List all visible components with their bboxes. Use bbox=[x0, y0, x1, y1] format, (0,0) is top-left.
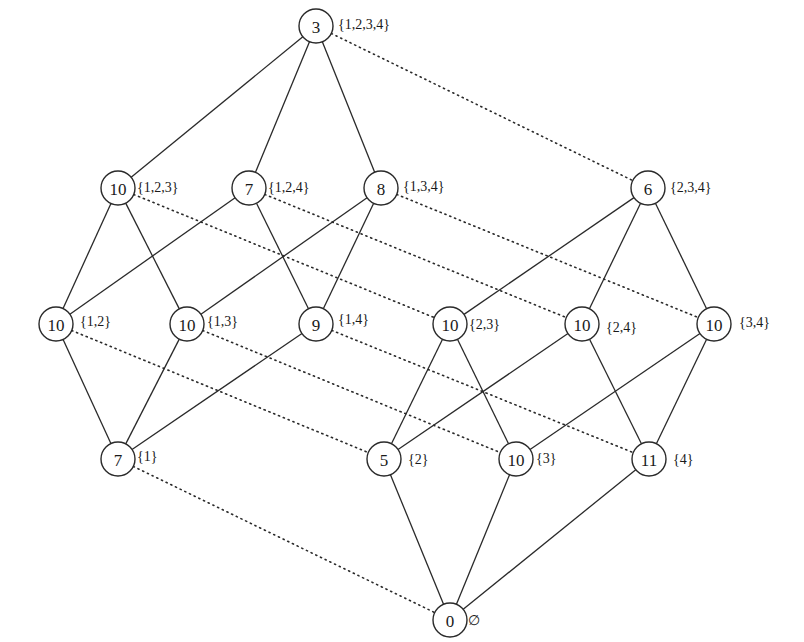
node-set-label: {1,3,4} bbox=[403, 179, 444, 194]
node-value: 10 bbox=[442, 316, 459, 335]
node-set-label: ∅ bbox=[468, 613, 480, 628]
edge-s4-s0 bbox=[463, 470, 636, 610]
node-set-label: {3,4} bbox=[739, 315, 770, 330]
edge-s34-s4 bbox=[656, 339, 706, 443]
node-set-label: {1,2,3} bbox=[137, 180, 178, 195]
lattice-node-s3: 10{3} bbox=[499, 442, 556, 476]
node-set-label: {4} bbox=[673, 452, 693, 467]
dotted-edge-s1-s0 bbox=[133, 466, 434, 612]
edge-s1234-s123 bbox=[131, 37, 303, 177]
edge-s124-s12 bbox=[70, 198, 235, 314]
edge-s234-s34 bbox=[655, 203, 706, 308]
node-value: 10 bbox=[179, 316, 196, 335]
lattice-node-s14: 9{1,4} bbox=[299, 307, 369, 341]
edge-s234-s24 bbox=[589, 203, 640, 308]
node-set-label: {1,2} bbox=[80, 314, 111, 329]
node-value: 11 bbox=[641, 451, 657, 470]
lattice-node-s4: 11{4} bbox=[632, 442, 693, 476]
node-value: 10 bbox=[706, 316, 723, 335]
node-set-label: {3} bbox=[536, 451, 556, 466]
edge-s34-s3 bbox=[530, 334, 700, 450]
node-set-label: {1,2,3,4} bbox=[338, 17, 390, 32]
edge-s134-s14 bbox=[323, 203, 373, 308]
lattice-node-s24: 10{2,4} bbox=[565, 307, 637, 341]
edge-s14-s1 bbox=[132, 334, 302, 450]
edge-s123-s12 bbox=[63, 203, 111, 308]
edge-s234-s23 bbox=[464, 198, 634, 315]
edge-s12-s1 bbox=[63, 339, 111, 443]
lattice-node-s134: 8{1,3,4} bbox=[364, 171, 444, 205]
node-set-label: {1,4} bbox=[338, 312, 369, 327]
lattice-node-s0: 0∅ bbox=[433, 603, 480, 637]
edge-s3-s0 bbox=[456, 475, 509, 605]
dotted-edge-s1234-s234 bbox=[331, 33, 632, 180]
lattice-node-s1: 7{1} bbox=[101, 442, 157, 476]
node-value: 6 bbox=[644, 180, 653, 199]
edge-s2-s0 bbox=[390, 475, 443, 605]
node-value: 0 bbox=[446, 612, 455, 631]
node-value: 8 bbox=[377, 180, 386, 199]
node-set-label: {2,3} bbox=[469, 317, 500, 332]
dotted-edge-s12-s2 bbox=[72, 330, 369, 452]
node-value: 7 bbox=[114, 451, 123, 470]
node-value: 10 bbox=[574, 316, 591, 335]
dotted-edge-s134-s34 bbox=[397, 194, 699, 317]
node-value: 3 bbox=[312, 18, 321, 37]
node-set-label: {1} bbox=[137, 449, 157, 464]
node-value: 9 bbox=[312, 316, 321, 335]
edge-s1234-s134 bbox=[322, 42, 374, 172]
lattice-node-s1234: 3{1,2,3,4} bbox=[299, 9, 390, 43]
node-set-label: {1,3} bbox=[207, 314, 238, 329]
lattice-node-s34: 10{3,4} bbox=[697, 307, 770, 341]
node-set-label: {1,2,4} bbox=[268, 180, 309, 195]
node-value: 10 bbox=[48, 316, 65, 335]
lattice-node-s12: 10{1,2} bbox=[39, 307, 111, 341]
node-set-label: {2,4} bbox=[606, 320, 637, 335]
node-value: 5 bbox=[380, 451, 389, 470]
nodes-layer: 3{1,2,3,4}10{1,2,3}7{1,2,4}8{1,3,4}6{2,3… bbox=[39, 9, 770, 637]
lattice-node-s234: 6{2,3,4} bbox=[631, 171, 711, 205]
dotted-edge-s123-s23 bbox=[134, 194, 435, 317]
node-set-label: {2,3,4} bbox=[670, 180, 711, 195]
lattice-node-s2: 5{2} bbox=[367, 442, 428, 476]
edge-s13-s1 bbox=[126, 339, 180, 444]
node-value: 10 bbox=[110, 180, 127, 199]
dotted-edge-s124-s24 bbox=[265, 194, 567, 317]
node-value: 7 bbox=[245, 180, 254, 199]
edge-s23-s2 bbox=[391, 339, 442, 443]
edge-s1234-s124 bbox=[255, 42, 309, 173]
dotted-edge-s13-s3 bbox=[203, 330, 501, 452]
node-value: 10 bbox=[508, 451, 525, 470]
lattice-node-s124: 7{1,2,4} bbox=[232, 171, 309, 205]
edge-s24-s2 bbox=[398, 334, 568, 450]
lattice-node-s123: 10{1,2,3} bbox=[101, 171, 178, 205]
node-set-label: {2} bbox=[408, 452, 428, 467]
subset-lattice-diagram: 3{1,2,3,4}10{1,2,3}7{1,2,4}8{1,3,4}6{2,3… bbox=[0, 0, 804, 642]
